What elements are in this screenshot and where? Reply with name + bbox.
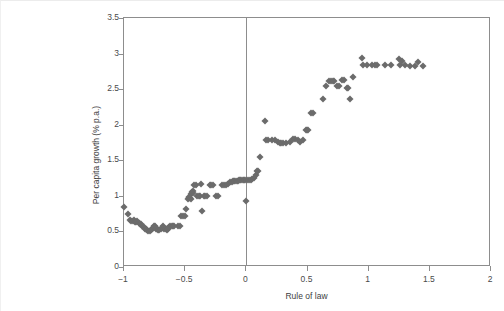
x-axis-tick xyxy=(429,266,430,271)
plot-area xyxy=(123,17,490,266)
y-axis-tick-label: 2 xyxy=(114,119,119,129)
x-axis-tick-label: 0 xyxy=(243,274,248,284)
x-axis-tick xyxy=(307,266,308,271)
x-axis-tick-label: 1.5 xyxy=(423,274,435,284)
data-point xyxy=(120,204,127,211)
x-axis-tick-label: −1 xyxy=(118,274,128,284)
y-axis-tick xyxy=(119,231,124,232)
scatter-chart: Per capita growth (% p.a.) 00.511.522.53… xyxy=(1,1,504,311)
y-axis-tick-label: 3 xyxy=(114,48,119,58)
y-axis-ticklabels: 00.511.522.533.5 xyxy=(97,17,119,266)
data-point xyxy=(256,154,263,161)
y-axis-tick xyxy=(119,160,124,161)
x-axis-tick-label: 2 xyxy=(488,274,493,284)
data-point xyxy=(358,54,365,61)
x-axis-tick-label: 0.5 xyxy=(301,274,313,284)
data-point xyxy=(319,96,326,103)
data-point xyxy=(199,207,206,214)
x-axis-tickmarks xyxy=(123,266,490,272)
x-axis-tick-label: 1 xyxy=(365,274,370,284)
data-point xyxy=(350,74,357,81)
data-point xyxy=(345,84,352,91)
data-point xyxy=(243,197,250,204)
x-axis-ticklabels: −1−0.500.511.52 xyxy=(123,274,490,288)
x-axis-tick-label: −0.5 xyxy=(176,274,193,284)
y-axis-tick xyxy=(119,89,124,90)
data-point xyxy=(262,118,269,125)
x-zero-reference-line xyxy=(246,18,247,265)
y-axis-tick-label: 0.5 xyxy=(107,225,119,235)
x-axis-tick xyxy=(123,266,124,271)
data-point xyxy=(387,61,394,68)
y-axis-tick xyxy=(119,18,124,19)
y-axis-tick-label: 3.5 xyxy=(107,12,119,22)
y-axis-tick xyxy=(119,54,124,55)
figure-canvas: Per capita growth (% p.a.) 00.511.522.53… xyxy=(0,0,504,311)
x-axis-tick xyxy=(368,266,369,271)
y-axis-tick-label: 1.5 xyxy=(107,154,119,164)
data-point xyxy=(198,181,205,188)
y-axis-tick-label: 2.5 xyxy=(107,83,119,93)
y-axis-tick xyxy=(119,125,124,126)
x-axis-tick xyxy=(184,266,185,271)
x-axis-tick xyxy=(490,266,491,271)
data-point xyxy=(346,96,353,103)
y-axis-tick xyxy=(119,196,124,197)
x-axis-title: Rule of law xyxy=(123,291,490,301)
y-axis-title-container: Per capita growth (% p.a.) xyxy=(73,17,97,266)
x-axis-tick xyxy=(245,266,246,271)
y-axis-tick-label: 0 xyxy=(114,261,119,271)
y-axis-tick-label: 1 xyxy=(114,190,119,200)
data-point xyxy=(420,63,427,70)
